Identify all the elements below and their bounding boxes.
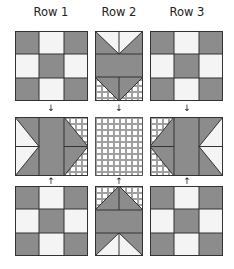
arrow-up-icon: ↑: [114, 177, 124, 186]
block-row1-mid-goose-right: [15, 117, 88, 176]
block-row3-bottom-nine-patch: [150, 186, 223, 256]
block-row1-top-nine-patch: [15, 31, 88, 101]
block-row2-mid-checkered: [95, 117, 143, 176]
block-row3-top-nine-patch: [150, 31, 223, 101]
arrow-down-icon: ↓: [182, 104, 192, 113]
block-row1-bottom-nine-patch: [15, 186, 88, 256]
arrow-down-icon: ↓: [46, 104, 56, 113]
header-row-3: Row 3: [151, 5, 223, 19]
header-row-1: Row 1: [15, 5, 87, 19]
arrow-down-icon: ↓: [114, 104, 124, 113]
block-row3-mid-goose-left: [150, 117, 223, 176]
arrow-up-icon: ↑: [46, 177, 56, 186]
arrow-up-icon: ↑: [182, 177, 192, 186]
block-row2-top-goose-down: [95, 31, 143, 101]
header-row-2: Row 2: [83, 5, 155, 19]
block-row2-bottom-goose-up: [95, 186, 143, 256]
